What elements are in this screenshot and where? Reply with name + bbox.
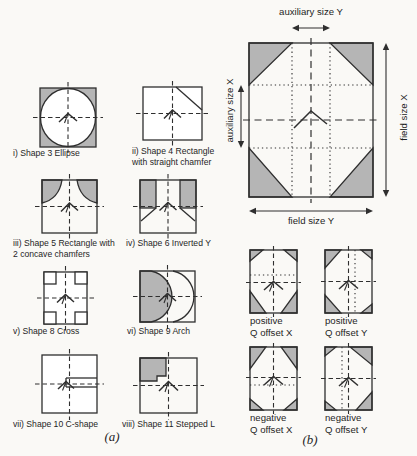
shape-6-inverted-y-diagram	[132, 172, 204, 241]
diagonal-left	[141, 208, 156, 221]
outer-arc	[173, 271, 194, 322]
shape-5-concave-chamfers-diagram	[34, 172, 105, 241]
field-size-x-arrow	[383, 43, 389, 197]
blocked-step-region	[140, 358, 166, 381]
corner-block-tr	[75, 272, 87, 284]
shape-11-stepped-l-diagram	[132, 350, 205, 421]
blocked-strip-right	[180, 180, 196, 208]
shape-6-caption: iv) Shape 6 Inverted Y	[126, 238, 226, 249]
shape-4-caption: ii) Shape 4 Rectanglewith straight chamf…	[132, 146, 227, 168]
shape-9-caption: vi) Shape 9 Arch	[127, 326, 217, 337]
blocked-corner-tr	[330, 43, 373, 85]
field-size-y-arrow	[249, 208, 373, 214]
shape-10-c-shape-diagram	[34, 347, 105, 421]
shape-4-chamfer-diagram	[135, 79, 210, 148]
auxiliary-size-y-arrow	[292, 25, 330, 31]
shape-5-caption: iii) Shape 5 Rectangle with2 concave cha…	[13, 238, 125, 260]
shape-3-caption: i) Shape 3 Ellipse	[13, 148, 103, 159]
blocked-corner-left	[42, 180, 62, 203]
shape-3-ellipse-diagram	[32, 80, 104, 155]
blocked-corner-right	[77, 180, 97, 203]
shape-8-cross-diagram	[36, 264, 95, 332]
blocked-strip-left	[140, 180, 156, 208]
negative-q-offset-x-diagram	[244, 341, 303, 416]
shape-8-caption: v) Shape 8 Cross	[13, 326, 103, 337]
negative-q-offset-y-label: negative Q offset Y	[325, 412, 385, 436]
blocked-corner-tl	[249, 43, 292, 85]
positive-q-offset-x-diagram	[244, 244, 303, 319]
corner-block-bl	[44, 312, 56, 324]
auxiliary-size-x-arrow	[238, 85, 244, 148]
blocked-corner-br	[330, 148, 373, 197]
shape-9-arch-diagram	[132, 263, 203, 330]
figure: i) Shape 3 Ellipse ii) Shape 4 Rectangle…	[0, 0, 417, 456]
diagonal-right	[180, 208, 195, 221]
positive-q-offset-y-diagram	[319, 244, 378, 319]
field-size-x-label: field size X	[398, 70, 411, 166]
field-size-diagram	[222, 0, 417, 235]
shape-11-caption: viii) Shape 11 Stepped L	[122, 419, 227, 430]
corner-block-tl	[44, 272, 56, 284]
corner-block-br	[75, 312, 87, 324]
auxiliary-size-x-label: auxiliary size X	[224, 63, 237, 159]
positive-q-offset-x-label: positive Q offset X	[250, 315, 310, 339]
field-size-y-label: field size Y	[261, 215, 361, 227]
positive-q-offset-y-label: positive Q offset Y	[325, 315, 385, 339]
panel-b-label: (b)	[290, 432, 330, 448]
blocked-corner-bl	[249, 148, 292, 197]
auxiliary-size-y-label: auxiliary size Y	[251, 6, 371, 18]
negative-q-offset-y-diagram	[319, 341, 378, 416]
panel-a-label: (a)	[92, 429, 132, 445]
